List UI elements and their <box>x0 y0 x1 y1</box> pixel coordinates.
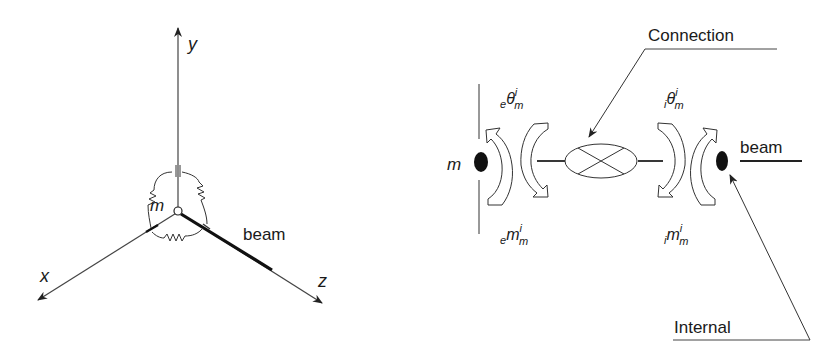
int-theta-label: iθim <box>664 86 684 111</box>
diagram-canvas: y x z beam m m <box>0 0 836 360</box>
internal-leader <box>730 175 810 340</box>
beam-label-right: beam <box>740 138 783 157</box>
int-moment-label: imim <box>664 222 688 247</box>
ext-theta-label: eθim <box>500 86 523 111</box>
internal-node <box>716 151 728 171</box>
x-axis-label: x <box>39 266 50 286</box>
ext-theta-arrow <box>486 128 513 205</box>
connection-element <box>565 144 637 178</box>
y-axis-label: y <box>186 34 198 54</box>
z-axis-label: z <box>317 271 327 291</box>
ext-moment-arrow <box>521 123 548 197</box>
external-node <box>474 152 488 172</box>
node-circle <box>174 207 182 215</box>
ext-moment-label: emim <box>500 222 528 247</box>
internal-label: Internal <box>674 318 731 337</box>
connection-leader <box>589 49 645 137</box>
beam-label: beam <box>243 225 286 244</box>
int-theta-arrow <box>658 123 685 197</box>
node-label: m <box>150 196 164 215</box>
right-figure: m eθim emim Connection iθim <box>447 26 810 340</box>
rotational-spring-xz <box>152 228 203 241</box>
connection-label: Connection <box>648 26 734 45</box>
x-axis-stub <box>146 225 158 232</box>
left-figure: y x z beam m <box>38 28 327 303</box>
int-moment-arrow <box>690 128 717 205</box>
external-node-label: m <box>447 155 461 174</box>
